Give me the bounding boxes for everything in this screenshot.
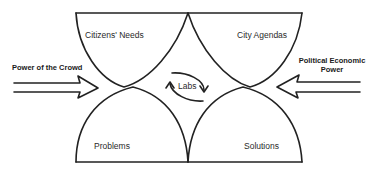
label-political-economic-line2: Power	[294, 65, 370, 74]
label-city-agendas: City Agendas	[237, 30, 287, 40]
label-solutions: Solutions	[244, 141, 279, 151]
label-problems: Problems	[94, 141, 130, 151]
cup-top-left	[76, 13, 188, 87]
label-power-of-the-crowd: Power of the Crowd	[12, 63, 82, 72]
label-citizens-needs: Citizens' Needs	[85, 30, 144, 40]
cup-top-right	[188, 13, 302, 87]
label-political-economic-power: Political Economic Power	[294, 56, 370, 74]
arrow-right-icon	[14, 76, 98, 98]
label-labs: Labs	[178, 81, 196, 91]
dome-bottom-left	[76, 87, 188, 162]
arrow-left-icon	[277, 75, 360, 98]
label-political-economic-line1: Political Economic	[294, 56, 370, 65]
